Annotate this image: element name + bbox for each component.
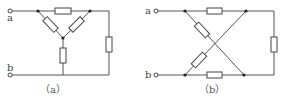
terminal-a-label: a bbox=[145, 5, 151, 16]
resistor-bottom bbox=[207, 72, 222, 78]
resistor-diagonal-upper bbox=[194, 22, 209, 38]
circuit-diagram: a b （a） a b （b） bbox=[0, 0, 283, 104]
resistor-top bbox=[55, 8, 71, 14]
circuit-b: a b （b） bbox=[145, 5, 277, 95]
junction-dot bbox=[244, 9, 247, 12]
junction-dot bbox=[183, 73, 186, 76]
terminal-a-label: a bbox=[7, 12, 13, 23]
terminal-a bbox=[154, 9, 158, 13]
terminal-b bbox=[154, 73, 158, 77]
junction-dot bbox=[36, 9, 39, 12]
junction-dot bbox=[242, 73, 245, 76]
resistor-right bbox=[271, 37, 277, 52]
terminal-b bbox=[8, 73, 12, 77]
resistor-star-right bbox=[69, 17, 85, 33]
resistor-star-left bbox=[43, 17, 58, 33]
resistor-right bbox=[106, 37, 112, 52]
resistor-top bbox=[207, 8, 222, 14]
junction-dot bbox=[183, 9, 186, 12]
terminal-b-label: b bbox=[7, 62, 13, 73]
terminal-b-label: b bbox=[145, 69, 151, 80]
junction-dot bbox=[61, 36, 64, 39]
resistor-diagonal-lower bbox=[191, 52, 206, 68]
caption-b: （b） bbox=[199, 84, 225, 95]
caption-a: （a） bbox=[40, 84, 66, 95]
circuit-a: a b （a） bbox=[7, 8, 112, 95]
junction-dot bbox=[88, 9, 91, 12]
resistor-star-bottom bbox=[60, 48, 66, 63]
